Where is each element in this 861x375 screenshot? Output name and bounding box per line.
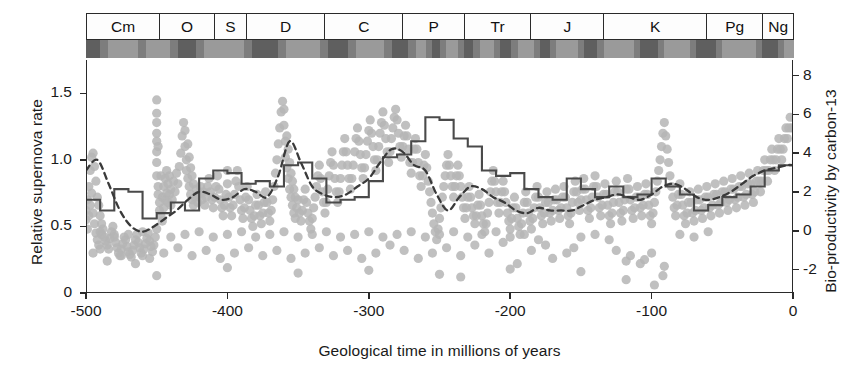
magneto-block [518,40,534,58]
scatter-point [435,214,444,223]
scatter-point [258,251,267,260]
scatter-point [510,193,519,202]
scatter-point [180,230,189,239]
y-left-tick [80,93,87,95]
scatter-point [152,129,161,138]
period-o: O [160,14,215,39]
scatter-point [288,177,297,186]
y-right-tick-label: 0 [803,221,843,239]
scatter-point [606,219,615,228]
scatter-point [268,195,277,204]
scatter-point [655,155,664,164]
scatter-point [476,201,485,210]
scatter-point [166,232,175,241]
scatter-point [117,251,126,260]
period-label: S [225,18,235,36]
scatter-point [456,272,465,281]
x-tick-label: -200 [475,302,545,320]
scatter-point [499,177,508,186]
scatter-point [664,158,673,167]
scatter-point [650,280,659,289]
period-c: C [325,14,403,39]
scatter-point [648,209,657,218]
scatter-point [237,227,246,236]
scatter-point [590,230,599,239]
scatter-point [534,235,543,244]
scatter-point [455,171,464,180]
scatter-point [195,227,204,236]
period-k: K [604,14,707,39]
scatter-point [124,230,133,239]
scatter-point [392,230,401,239]
scatter-point [421,150,430,159]
scatter-point [152,118,161,127]
period-label: C [358,18,369,36]
x-tick [651,292,653,299]
scatter-point [783,134,792,143]
scatter-point [327,147,336,156]
scatter-point [470,240,479,249]
scatter-point [145,254,154,263]
scatter-point [407,227,416,236]
scatter-point [562,248,571,257]
scatter-point [660,118,669,127]
scatter-point [435,230,444,239]
scatter-point [456,182,465,191]
scatter-point [187,251,196,260]
scatter-point [548,254,557,263]
magneto-block [762,40,778,58]
magneto-block [664,40,690,58]
y-right-tick [792,230,799,232]
scatter-point [517,219,526,228]
scatter-point [551,185,560,194]
y-right-tick [792,114,799,116]
scatter-point [612,246,621,255]
period-label: Pg [725,18,744,36]
period-tr: Tr [465,14,532,39]
scatter-point [506,224,515,233]
scatter-point [629,214,638,223]
scatter-point [315,161,324,170]
y-left-tick-label: 0.5 [28,216,72,234]
scatter-point [131,259,140,268]
scatter-point [654,166,663,175]
scatter-point [230,248,239,257]
scatter-point [407,169,416,178]
scatter-point [350,230,359,239]
scatter-point [704,227,713,236]
scatter-point [185,153,194,162]
scatter-point [272,246,281,255]
scatter-point [94,201,103,210]
scatter-point [779,145,788,154]
scatter-point [104,244,113,253]
period-pg: Pg [707,14,763,39]
scatter-point [286,254,295,263]
scatter-point [607,209,616,218]
scatter-point [301,248,310,257]
scatter-point [173,179,182,188]
scatter-point [154,142,163,151]
scatter-point [219,211,228,220]
y-right-tick-label: -2 [803,260,843,278]
scatter-point [384,158,393,167]
scatter-point [491,227,500,236]
scatter-point [445,161,454,170]
scatter-point [209,232,218,241]
scatter-point [671,211,680,220]
magnetostratigraphy-band [86,40,794,58]
magneto-block [416,40,426,58]
magneto-block [696,40,716,58]
y-left-tick-label: 0 [28,283,72,301]
scatter-point [483,209,492,218]
scatter-point [622,256,631,265]
scatter-point [702,182,711,191]
scatter-point [186,163,195,172]
scatter-point [301,185,310,194]
scatter-point [378,232,387,241]
magneto-block [178,40,196,58]
scatter-point [244,243,253,252]
y-left-tick-label: 1.5 [28,83,72,101]
magneto-block [108,40,138,58]
scatter-point [267,206,276,215]
scatter-point [527,246,536,255]
